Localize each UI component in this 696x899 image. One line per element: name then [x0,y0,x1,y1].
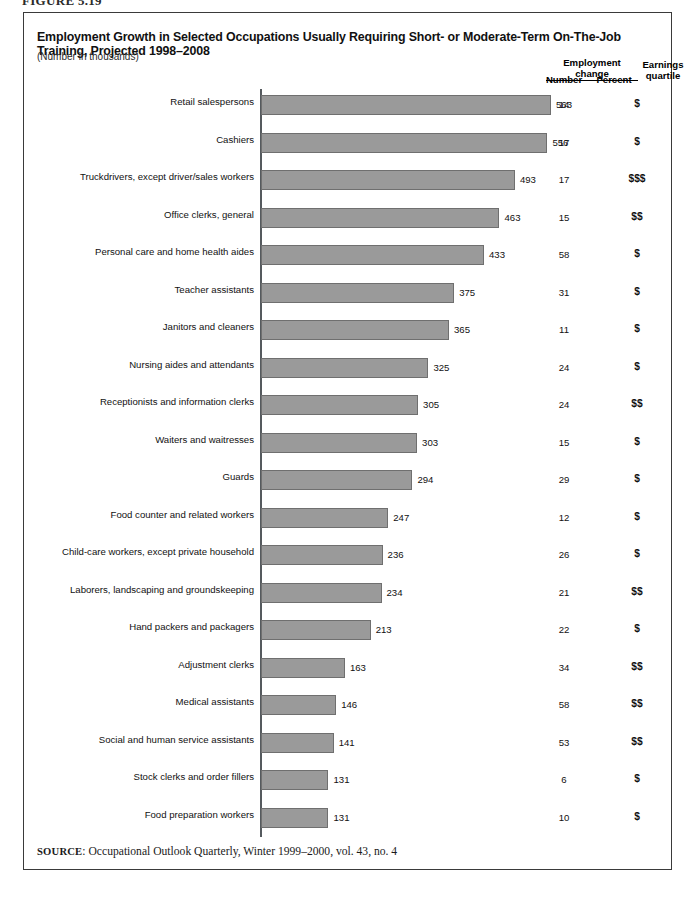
row-category-label: Food counter and related workers [111,509,254,520]
cell-percent-change: 21 [542,587,586,598]
cell-percent-change: 17 [542,137,586,148]
cell-percent-change: 26 [542,549,586,560]
chart-row: Waiters and waitresses30315$ [24,425,673,463]
chart-row: Child-care workers, except private house… [24,537,673,575]
cell-percent-change: 15 [542,437,586,448]
bar [261,470,412,490]
column-headers: Employment change Number Percent Earning… [534,57,674,89]
row-category-label: Personal care and home health aides [95,246,254,257]
cell-earnings-quartile: $ [612,361,662,372]
chart-row: Food preparation workers13110$ [24,800,673,838]
bar-value-label: 163 [350,662,366,673]
bar-value-label: 375 [459,287,475,298]
cell-percent-change: 12 [542,512,586,523]
cell-earnings-quartile: $$ [612,698,662,709]
cell-earnings-quartile: $$ [612,736,662,747]
row-category-label: Office clerks, general [164,209,254,220]
cell-percent-change: 15 [542,212,586,223]
cell-earnings-quartile: $ [612,473,662,484]
chart-plot-area: Retail salespersons56314$Cashiers55617$T… [24,87,673,839]
cell-earnings-quartile: $$$ [612,173,662,184]
chart-row: Laborers, landscaping and groundskeeping… [24,575,673,613]
bar-value-label: 146 [341,699,357,710]
bar [261,770,328,790]
cell-percent-change: 34 [542,662,586,673]
cell-earnings-quartile: $ [612,286,662,297]
bar-value-label: 141 [339,737,355,748]
row-category-label: Cashiers [216,134,254,145]
bar-value-label: 325 [433,362,449,373]
bar [261,433,417,453]
column-header-earnings-quartile: Earnings quartile [638,59,688,81]
chart-row: Cashiers55617$ [24,125,673,163]
chart-row: Food counter and related workers24712$ [24,500,673,538]
cell-percent-change: 24 [542,399,586,410]
row-category-label: Nursing aides and attendants [129,359,254,370]
bar-value-label: 131 [333,812,349,823]
cell-earnings-quartile: $ [612,323,662,334]
column-header-number: Number [542,74,586,85]
cell-percent-change: 22 [542,624,586,635]
row-category-label: Receptionists and information clerks [100,396,254,407]
bar [261,508,388,528]
column-header-percent: Percent [592,74,636,85]
source-text: : Occupational Outlook Quarterly, Winter… [82,845,397,858]
bar-value-label: 234 [387,587,403,598]
cell-earnings-quartile: $ [612,436,662,447]
row-category-label: Medical assistants [176,696,254,707]
figure-number: FIGURE 5.19 [22,0,102,9]
chart-row: Medical assistants14658$$ [24,687,673,725]
row-category-label: Child-care workers, except private house… [62,546,254,557]
bar [261,545,383,565]
bar-value-label: 305 [423,399,439,410]
row-category-label: Hand packers and packagers [129,621,254,632]
bar-value-label: 236 [388,549,404,560]
bar [261,133,547,153]
row-category-label: Retail salespersons [170,96,254,107]
cell-earnings-quartile: $$ [612,398,662,409]
cell-percent-change: 58 [542,699,586,710]
chart-row: Adjustment clerks16334$$ [24,650,673,688]
cell-percent-change: 6 [542,774,586,785]
bar [261,583,382,603]
cell-earnings-quartile: $$ [612,661,662,672]
chart-subtitle: (Number in thousands) [37,51,139,62]
row-category-label: Adjustment clerks [178,659,254,670]
bar [261,208,499,228]
row-category-label: Truckdrivers, except driver/sales worker… [80,171,254,182]
bar-value-label: 294 [417,474,433,485]
chart-row: Personal care and home health aides43358… [24,237,673,275]
cell-percent-change: 10 [542,812,586,823]
bar [261,620,371,640]
cell-earnings-quartile: $ [612,511,662,522]
chart-row: Receptionists and information clerks3052… [24,387,673,425]
cell-earnings-quartile: $ [612,248,662,259]
cell-percent-change: 11 [542,324,586,335]
bar [261,808,328,828]
row-category-label: Laborers, landscaping and groundskeeping [70,584,254,595]
bar-value-label: 303 [422,437,438,448]
cell-earnings-quartile: $ [612,98,662,109]
chart-row: Hand packers and packagers21322$ [24,612,673,650]
cell-percent-change: 24 [542,362,586,373]
bar [261,733,334,753]
bar-value-label: 433 [489,249,505,260]
chart-row: Retail salespersons56314$ [24,87,673,125]
row-category-label: Waiters and waitresses [155,434,254,445]
bar-value-label: 213 [376,624,392,635]
source-note: SOURCE: Occupational Outlook Quarterly, … [37,845,397,858]
row-category-label: Janitors and cleaners [163,321,254,332]
bar-value-label: 247 [393,512,409,523]
cell-earnings-quartile: $ [612,136,662,147]
cell-percent-change: 31 [542,287,586,298]
row-category-label: Social and human service assistants [99,734,254,745]
bar [261,658,345,678]
bar-value-label: 131 [333,774,349,785]
cell-percent-change: 29 [542,474,586,485]
bar [261,695,336,715]
bar [261,358,428,378]
bar [261,95,551,115]
chart-row: Guards29429$ [24,462,673,500]
bar-value-label: 463 [504,212,520,223]
bar [261,320,449,340]
